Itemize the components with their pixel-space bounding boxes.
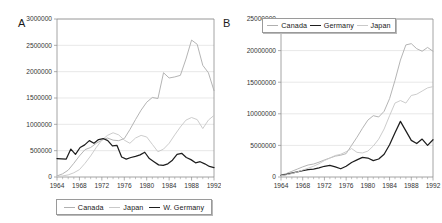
y-tick-label: 500000 (30, 147, 52, 154)
legend-label: Japan (371, 21, 391, 30)
x-tick-label: 1968 (72, 182, 87, 189)
y-tick-label: 2000000 (26, 68, 52, 75)
x-tick-label: 1972 (95, 182, 110, 189)
series-line-japan (281, 87, 433, 176)
panel-b-plot: 0500000010000000150000002000000025000000… (221, 0, 442, 223)
x-tick-label: 1988 (184, 182, 199, 189)
legend-entry-germany[interactable]: Germany (310, 21, 354, 30)
legend-panel-b: CanadaGermanyJapan (262, 18, 396, 33)
legend-swatch-icon (109, 207, 120, 208)
x-tick-label: 1984 (162, 182, 177, 189)
x-tick-label: 1972 (317, 182, 332, 189)
legend-entry-canada[interactable]: Canada (64, 203, 104, 212)
legend-swatch-icon (310, 25, 321, 26)
x-tick-label: 1968 (295, 182, 310, 189)
legend-entry-japan[interactable]: Japan (109, 203, 143, 212)
x-tick-label: 1976 (117, 182, 132, 189)
series-line-germany (281, 121, 433, 175)
y-tick-label: 10000000 (247, 110, 277, 117)
legend-entry-canada[interactable]: Canada (267, 21, 307, 30)
legend-label: W. Germany (163, 203, 204, 212)
legend-swatch-icon (267, 25, 278, 26)
legend-panel-a: CanadaJapanW. Germany (56, 199, 212, 215)
y-tick-label: 15000000 (247, 79, 277, 86)
series-line-canada (57, 40, 214, 176)
x-tick-label: 1988 (404, 182, 419, 189)
x-tick-label: 1980 (361, 182, 376, 189)
legend-swatch-icon (357, 25, 368, 26)
legend-swatch-icon (64, 207, 75, 208)
chart-panel-b: B 05000000100000001500000020000000250000… (221, 0, 442, 223)
two-panel-line-chart-figure: A 05000001000000150000020000002500000300… (0, 0, 442, 223)
y-tick-label: 20000000 (247, 47, 277, 54)
legend-entry-japan[interactable]: Japan (357, 21, 391, 30)
y-tick-label: 0 (48, 173, 52, 180)
y-tick-label: 0 (272, 173, 276, 180)
series-line-canada (281, 44, 433, 175)
y-tick-label: 3000000 (26, 15, 52, 22)
legend-label: Japan (123, 203, 143, 212)
y-tick-label: 2500000 (26, 42, 52, 49)
x-tick-label: 1980 (139, 182, 154, 189)
legend-label: Canada (281, 21, 307, 30)
panel-a-plot: 0500000100000015000002000000250000030000… (0, 0, 221, 223)
legend-entry-w-germany[interactable]: W. Germany (149, 203, 204, 212)
x-tick-label: 1976 (339, 182, 354, 189)
y-tick-label: 5000000 (250, 142, 276, 149)
x-tick-label: 1964 (50, 182, 65, 189)
legend-label: Canada (78, 203, 104, 212)
legend-label: Germany (324, 21, 354, 30)
x-tick-label: 1992 (207, 182, 221, 189)
y-tick-label: 1500000 (26, 94, 52, 101)
x-tick-label: 1984 (382, 182, 397, 189)
y-tick-label: 1000000 (26, 121, 52, 128)
x-tick-label: 1964 (274, 182, 289, 189)
series-line-w-germany (57, 139, 214, 168)
x-tick-label: 1992 (426, 182, 441, 189)
chart-panel-a: A 05000001000000150000020000002500000300… (0, 0, 221, 223)
legend-swatch-icon (149, 207, 160, 208)
